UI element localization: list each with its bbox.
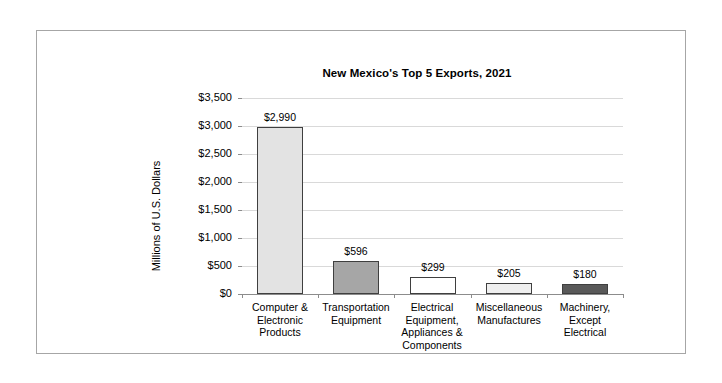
y-tick-mark — [238, 210, 242, 211]
x-tick-mark — [623, 294, 624, 298]
category-label: Computer &ElectronicProducts — [242, 301, 318, 339]
category-label-line: Components — [394, 339, 470, 352]
bar — [333, 261, 379, 294]
y-tick-label: $3,500 — [170, 92, 232, 103]
y-tick-label: $1,500 — [170, 204, 232, 215]
y-tick-mark — [238, 98, 242, 99]
x-tick-mark — [394, 294, 395, 298]
plot-area: $3,500$3,000$2,500$2,000$1,500$1,000$500… — [242, 98, 623, 294]
x-tick-mark — [318, 294, 319, 298]
y-tick-label: $2,000 — [170, 176, 232, 187]
category-label-line: Equipment, — [394, 314, 470, 327]
y-tick-mark — [238, 238, 242, 239]
category-label-line: Except — [547, 314, 623, 327]
y-tick-mark — [238, 182, 242, 183]
category-label-line: Manufactures — [471, 314, 547, 327]
category-label: Machinery,ExceptElectrical — [547, 301, 623, 339]
bar-data-label: $180 — [545, 269, 625, 280]
y-axis-title: Millions of U.S. Dollars — [145, 131, 167, 301]
category-label-line: Products — [242, 326, 318, 339]
category-label: ElectricalEquipment,Appliances &Componen… — [394, 301, 470, 351]
category-label: TransportationEquipment — [318, 301, 394, 326]
y-tick-mark — [238, 266, 242, 267]
category-label-line: Electrical — [394, 301, 470, 314]
category-label-line: Computer & — [242, 301, 318, 314]
x-axis-line — [242, 294, 623, 295]
category-label-line: Transportation — [318, 301, 394, 314]
y-tick-label: $1,000 — [170, 232, 232, 243]
bar — [562, 284, 608, 294]
y-tick-mark — [238, 154, 242, 155]
bar-data-label: $596 — [316, 246, 396, 257]
bar — [257, 127, 303, 294]
bar — [410, 277, 456, 294]
category-label-line: Machinery, — [547, 301, 623, 314]
bar — [486, 283, 532, 294]
category-label-line: Electrical — [547, 326, 623, 339]
y-tick-label: $2,500 — [170, 148, 232, 159]
y-axis-title-text: Millions of U.S. Dollars — [150, 161, 162, 272]
x-tick-mark — [471, 294, 472, 298]
y-tick-mark — [238, 126, 242, 127]
x-tick-mark — [547, 294, 548, 298]
chart-frame: New Mexico's Top 5 Exports, 2021 Million… — [36, 30, 686, 354]
bar-data-label: $205 — [469, 268, 549, 279]
x-tick-mark — [242, 294, 243, 298]
category-label-line: Electronic — [242, 314, 318, 327]
bar-data-label: $2,990 — [240, 112, 320, 123]
category-label: MiscellaneousManufactures — [471, 301, 547, 326]
y-tick-label: $500 — [170, 260, 232, 271]
bar-data-label: $299 — [393, 262, 473, 273]
y-tick-label: $3,000 — [170, 120, 232, 131]
category-label-line: Equipment — [318, 314, 394, 327]
category-label-line: Appliances & — [394, 326, 470, 339]
gridline — [242, 98, 623, 99]
category-label-line: Miscellaneous — [471, 301, 547, 314]
y-tick-label: $0 — [170, 288, 232, 299]
chart-title: New Mexico's Top 5 Exports, 2021 — [207, 67, 627, 79]
